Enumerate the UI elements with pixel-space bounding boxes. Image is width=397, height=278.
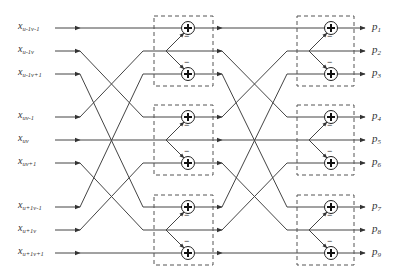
minus-sign: − <box>327 57 332 67</box>
split-down <box>166 140 184 158</box>
stage2-wire-8 <box>222 163 325 230</box>
minus-sign: − <box>184 210 189 220</box>
input-label-sub: u-1v+1 <box>22 71 41 78</box>
split-down <box>309 230 327 248</box>
stage1-wire-8 <box>80 163 182 230</box>
output-label-sub: 4 <box>378 115 382 123</box>
split-down <box>309 140 327 158</box>
minus-sign: − <box>327 236 332 246</box>
output-label-1: p1 <box>372 21 381 34</box>
output-label-9: p9 <box>372 246 381 259</box>
output-label-6: p6 <box>372 156 381 169</box>
minus-sign: − <box>184 57 189 67</box>
input-label-7: xu+1v-1 <box>18 200 42 212</box>
stage1-wire-6 <box>80 163 182 230</box>
input-label-sub: u-1v-1 <box>22 25 39 32</box>
input-label-sub: u+1v+1 <box>22 250 43 257</box>
split-down <box>166 230 184 248</box>
split-up <box>166 212 184 230</box>
input-label-3: xu-1v+1 <box>18 67 42 79</box>
split-up <box>166 33 184 51</box>
minus-sign: − <box>184 236 189 246</box>
output-label-3: p3 <box>372 67 381 80</box>
input-label-sub: uv <box>22 137 28 144</box>
input-label-4: xuv-1 <box>18 110 34 122</box>
input-label-sub: uv+1 <box>22 160 36 167</box>
input-label-6: xuv+1 <box>18 156 36 168</box>
split-up <box>166 122 184 140</box>
output-label-sub: 9 <box>378 251 382 259</box>
output-label-sub: 1 <box>378 26 382 34</box>
input-label-9: xu+1v+1 <box>18 246 44 258</box>
split-up <box>309 212 327 230</box>
split-up <box>309 122 327 140</box>
output-label-sub: 6 <box>378 161 382 169</box>
minus-sign: − <box>184 120 189 130</box>
stage2-wire-4 <box>222 51 325 117</box>
stage2-wire-6 <box>222 163 325 230</box>
input-label-sub: u-1v <box>22 48 34 55</box>
stage2-wire-2 <box>222 51 325 117</box>
minus-sign: − <box>184 146 189 156</box>
input-label-5: xuv <box>18 133 29 145</box>
output-label-7: p7 <box>372 200 381 213</box>
split-down <box>166 51 184 69</box>
minus-sign: − <box>327 120 332 130</box>
input-label-sub: uv-1 <box>22 114 34 121</box>
input-label-2: xu-1v <box>18 44 34 56</box>
wires <box>55 28 365 253</box>
butterfly-network-diagram: −−−−−−−−−−−− <box>0 0 397 278</box>
split-down <box>309 51 327 69</box>
input-label-8: xu+1v <box>18 223 36 235</box>
output-label-sub: 7 <box>378 205 382 213</box>
minus-sign: − <box>327 146 332 156</box>
minus-sign: − <box>327 31 332 41</box>
output-label-sub: 3 <box>378 72 382 80</box>
output-label-8: p8 <box>372 223 381 236</box>
split-up <box>309 33 327 51</box>
input-label-1: xu-1v-1 <box>18 21 39 33</box>
output-label-sub: 8 <box>378 228 382 236</box>
input-label-sub: u+1v <box>22 227 36 234</box>
output-label-4: p4 <box>372 110 381 123</box>
output-label-5: p5 <box>372 133 381 146</box>
input-label-sub: u+1v-1 <box>22 204 41 211</box>
output-label-sub: 2 <box>378 49 382 57</box>
minus-sign: − <box>327 210 332 220</box>
output-label-2: p2 <box>372 44 381 57</box>
output-label-sub: 5 <box>378 138 382 146</box>
minus-sign: − <box>184 31 189 41</box>
